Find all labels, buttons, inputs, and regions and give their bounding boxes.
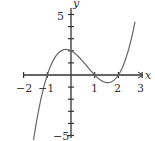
- x-tick-label-neg1: −1: [38, 82, 54, 95]
- x-tick-label-3: 3: [137, 82, 144, 95]
- x-tick-label-2: 2: [114, 82, 121, 95]
- y-tick-label-5: 5: [57, 10, 64, 23]
- y-axis-label: y: [72, 0, 80, 10]
- chart-canvas: −2 −1 1 2 3 5 −5 x y: [0, 0, 155, 141]
- x-tick-label-neg2: −2: [16, 82, 32, 95]
- x-axis-label: x: [145, 69, 152, 82]
- cubic-curve: [34, 22, 135, 140]
- x-tick-label-1: 1: [91, 82, 98, 95]
- y-tick-label-neg5: −5: [53, 130, 69, 141]
